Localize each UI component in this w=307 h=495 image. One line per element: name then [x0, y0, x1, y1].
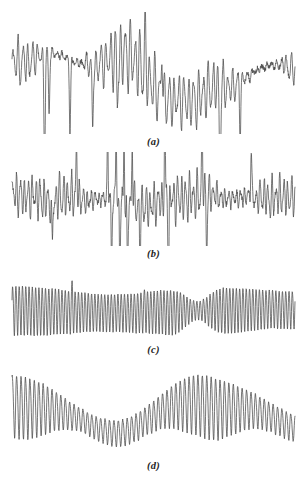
panel-d	[0, 372, 307, 458]
panel-c-svg	[0, 278, 307, 342]
panel-d-svg	[0, 372, 307, 458]
panel-b-trace	[12, 152, 295, 246]
panel-a-label: (a)	[0, 136, 307, 147]
panel-b-label: (b)	[0, 248, 307, 259]
panel-c-trace	[12, 281, 295, 336]
panel-b-plot	[0, 152, 307, 246]
panel-c-label: (c)	[0, 344, 307, 355]
panel-a-svg	[0, 12, 307, 134]
panel-a	[0, 12, 307, 134]
panel-d-plot	[0, 372, 307, 458]
panel-c	[0, 278, 307, 342]
panel-d-trace	[12, 375, 295, 447]
figure-container: (a) (b) (c) (d)	[0, 0, 307, 495]
panel-a-trace	[12, 12, 295, 134]
panel-c-plot	[0, 278, 307, 342]
panel-b	[0, 152, 307, 246]
panel-a-plot	[0, 12, 307, 134]
panel-b-svg	[0, 152, 307, 246]
panel-d-label: (d)	[0, 460, 307, 471]
